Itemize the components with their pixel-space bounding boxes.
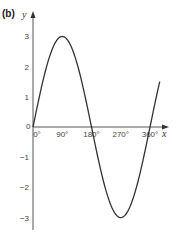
y-tick-label: 2 <box>25 63 30 72</box>
x-tick-label: 180° <box>83 130 100 139</box>
axes: yx <box>21 9 169 230</box>
y-tick-label: 1 <box>25 93 30 102</box>
x-tick-label: 360° <box>142 130 159 139</box>
y-tick-label: −1 <box>20 153 30 162</box>
y-axis-label: y <box>21 9 27 20</box>
x-tick-label: 270° <box>112 130 129 139</box>
ticks: 3210−1−2−30°90°180°270°360° <box>20 32 158 222</box>
y-tick-label: −2 <box>20 183 30 192</box>
sine-chart: yx 3210−1−2−30°90°180°270°360° <box>0 0 180 233</box>
y-axis-arrow-icon <box>31 11 36 18</box>
y-tick-label: −3 <box>20 214 30 223</box>
x-axis-label: x <box>161 128 167 139</box>
y-tick-label: 3 <box>25 32 30 41</box>
y-tick-label: 0 <box>26 122 31 131</box>
x-tick-label: 90° <box>56 130 68 139</box>
x-tick-label: 0° <box>33 130 41 139</box>
